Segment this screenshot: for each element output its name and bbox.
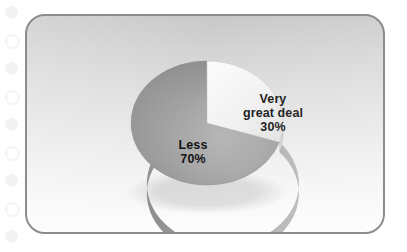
screenshot-root: Very great deal 30% Less 70%	[0, 0, 407, 252]
watermark-dots	[0, 0, 26, 252]
pie-label-very-great-deal-line1: Very	[230, 92, 316, 106]
pie-label-less: Less 70%	[162, 138, 224, 166]
pie-chart: Very great deal 30% Less 70%	[27, 16, 383, 232]
pie-label-less-line1: Less	[162, 138, 224, 152]
chart-frame: Very great deal 30% Less 70%	[25, 14, 385, 234]
pie-value-very-great-deal: 30%	[230, 120, 316, 134]
pie-label-very-great-deal: Very great deal 30%	[230, 92, 316, 134]
pie-value-less: 70%	[162, 152, 224, 166]
pie-chart-svg	[27, 16, 383, 232]
pie-label-very-great-deal-line2: great deal	[230, 106, 316, 120]
